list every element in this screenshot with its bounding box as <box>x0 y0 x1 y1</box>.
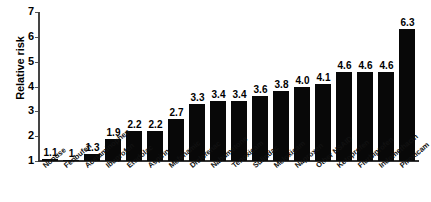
bar-group: 1.1 <box>40 8 61 161</box>
bar-value-label: 4.6 <box>373 60 400 71</box>
y-axis-title: Relative risk <box>14 0 26 138</box>
bar-value-label: 6.3 <box>394 17 421 28</box>
y-tick-label: 1 <box>28 154 34 167</box>
bar-group: 3.4 <box>208 8 229 161</box>
y-tick-label: 5 <box>28 55 34 68</box>
bar-value-label: 2.2 <box>142 119 169 130</box>
y-tick-label: 3 <box>28 104 34 117</box>
bar-group: 2.2 <box>145 8 166 161</box>
bar-group: 3.3 <box>187 8 208 161</box>
bar-group: 1.3 <box>82 8 103 161</box>
plot-area: 1.111.31.92.22.22.73.33.43.43.63.84.04.1… <box>40 8 419 161</box>
y-tick-label: 2 <box>28 129 34 142</box>
y-tick-label: 6 <box>28 30 34 43</box>
bar-value-label: 2.7 <box>163 107 190 118</box>
bar-value-label: 4.1 <box>310 72 337 83</box>
bar-group: 2.2 <box>124 8 145 161</box>
bar-group: 2.7 <box>166 8 187 161</box>
y-tick-label: 4 <box>28 80 34 93</box>
y-tick-label: 7 <box>28 5 34 18</box>
bar-group: 4.0 <box>292 8 313 161</box>
bar-group: 1 <box>61 8 82 161</box>
bar-group: 4.1 <box>313 8 334 161</box>
